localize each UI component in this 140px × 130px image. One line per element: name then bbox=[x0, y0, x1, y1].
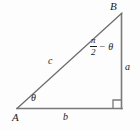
fraction-pi-over-two: π 2 bbox=[90, 36, 97, 57]
right-angle-marker-icon bbox=[113, 100, 122, 109]
fraction-numerator: π bbox=[90, 36, 97, 46]
theta-term: θ bbox=[108, 42, 113, 52]
angle-label-at-b: π 2 − θ bbox=[90, 36, 113, 57]
triangle-graphic bbox=[0, 0, 140, 130]
side-label-c: c bbox=[48, 56, 52, 66]
vertex-label-a: A bbox=[12, 112, 19, 123]
vertex-label-b: B bbox=[110, 1, 117, 12]
minus-sign: − bbox=[99, 42, 107, 52]
angle-label-theta-at-a: θ bbox=[31, 93, 36, 103]
side-label-a: a bbox=[125, 62, 130, 72]
right-triangle-figure: A B c a b θ π 2 − θ bbox=[0, 0, 140, 130]
fraction-denominator: 2 bbox=[90, 47, 97, 57]
side-label-b: b bbox=[63, 112, 68, 122]
